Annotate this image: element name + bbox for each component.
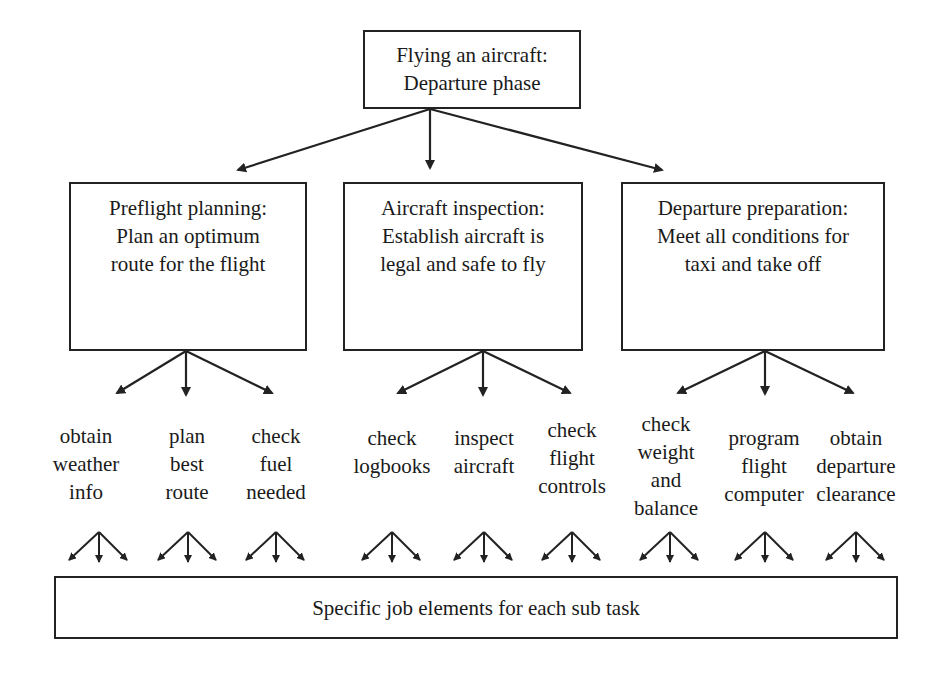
task-box-preflight-planning: Preflight planning: Plan an optimum rout… (69, 182, 307, 351)
subtask-check-fuel-needed: check fuel needed (216, 422, 336, 506)
arrow-preflight-planning-to-subtask-3 (186, 351, 272, 393)
task-box-aircraft-inspection: Aircraft inspection: Establish aircraft … (343, 182, 583, 351)
root-task-subtitle: Departure phase (365, 69, 579, 97)
mini-arrow-right-9 (856, 532, 884, 560)
job-elements-box: Specific job elements for each sub task (54, 576, 898, 639)
arrow-aircraft-inspection-to-subtask-1 (398, 351, 483, 393)
task-label: Aircraft inspection: Establish aircraft … (345, 194, 581, 278)
arrow-root-to-departure-preparation (430, 109, 662, 170)
task-label: Departure preparation: Meet all conditio… (623, 194, 883, 278)
mini-arrow-right-2 (188, 532, 216, 560)
arrow-preflight-planning-to-subtask-1 (117, 351, 186, 393)
task-box-departure-preparation: Departure preparation: Meet all conditio… (621, 182, 885, 351)
mini-arrow-left-2 (158, 532, 188, 560)
arrow-root-to-preflight-planning (238, 109, 430, 170)
arrow-departure-preparation-to-subtask-3 (765, 351, 853, 393)
task-label: Preflight planning: Plan an optimum rout… (71, 194, 305, 278)
root-task-title: Flying an aircraft: (365, 41, 579, 69)
arrow-aircraft-inspection-to-subtask-3 (483, 351, 570, 393)
mini-arrow-right-7 (670, 532, 698, 560)
mini-arrow-right-3 (276, 532, 304, 560)
arrow-departure-preparation-to-subtask-1 (678, 351, 765, 393)
mini-arrow-left-3 (246, 532, 276, 560)
mini-arrow-right-6 (572, 532, 600, 560)
job-elements-label: Specific job elements for each sub task (56, 594, 896, 622)
mini-arrow-right-8 (765, 532, 793, 560)
root-task-box: Flying an aircraft: Departure phase (363, 30, 581, 109)
mini-arrow-left-4 (362, 532, 392, 560)
subtask-obtain-departure-clearance: obtain departure clearance (796, 424, 916, 508)
mini-arrow-left-1 (69, 532, 99, 560)
mini-arrow-right-5 (484, 532, 512, 560)
mini-arrow-right-4 (392, 532, 420, 560)
mini-arrow-left-8 (735, 532, 765, 560)
mini-arrow-left-6 (542, 532, 572, 560)
mini-arrow-left-9 (826, 532, 856, 560)
mini-arrow-right-1 (99, 532, 127, 560)
mini-arrow-left-5 (454, 532, 484, 560)
task-hierarchy-diagram: Flying an aircraft: Departure phase Pref… (0, 0, 952, 682)
mini-arrow-left-7 (640, 532, 670, 560)
